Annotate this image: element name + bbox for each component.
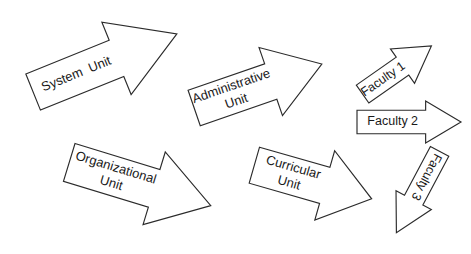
- arrow-system-unit[interactable]: System Unit: [19, 0, 192, 128]
- arrow-shape-curricular-unit: [244, 131, 381, 234]
- diagram-canvas: System UnitAdministrativeUnitOrganizatio…: [0, 0, 471, 254]
- arrow-administrative-unit[interactable]: AdministrativeUnit: [182, 30, 333, 142]
- arrow-faculty-2[interactable]: Faculty 2: [357, 101, 461, 143]
- arrow-faculty-1[interactable]: Faculty 1: [351, 29, 444, 112]
- arrow-shape-organizational-unit: [58, 126, 222, 242]
- arrow-faculty-3[interactable]: Faculty 3: [379, 142, 458, 242]
- arrow-curricular-unit[interactable]: CurricularUnit: [244, 131, 381, 234]
- arrow-layer: System UnitAdministrativeUnitOrganizatio…: [0, 0, 471, 254]
- arrow-label-faculty-2: Faculty 2: [367, 114, 418, 128]
- arrow-organizational-unit[interactable]: OrganizationalUnit: [58, 126, 222, 242]
